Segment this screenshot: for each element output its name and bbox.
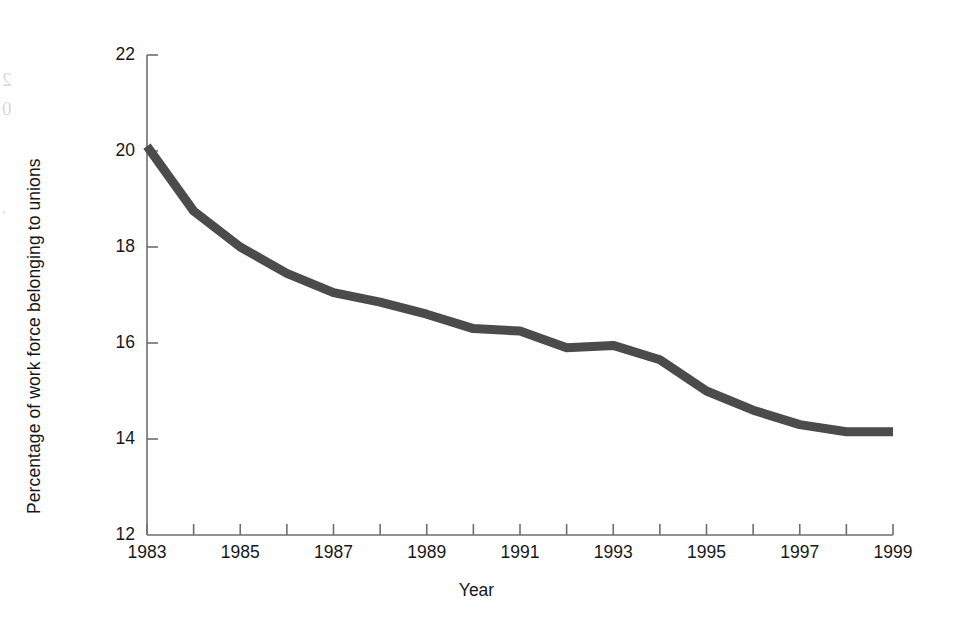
chart-figure: 2 0 , Percentage of work force belonging… — [0, 0, 953, 632]
data-series-line — [147, 146, 893, 432]
y-tick-label: 18 — [95, 236, 135, 257]
union-membership-line — [147, 146, 893, 432]
axes-group — [147, 55, 893, 535]
y-tick-label: 20 — [95, 140, 135, 161]
x-tick-label: 1993 — [578, 542, 648, 563]
tick-marks-group — [147, 55, 893, 535]
x-tick-label: 1991 — [485, 542, 555, 563]
x-tick-label: 1999 — [858, 542, 928, 563]
x-tick-label: 1987 — [299, 542, 369, 563]
x-tick-label: 1997 — [765, 542, 835, 563]
y-tick-label: 14 — [95, 428, 135, 449]
x-tick-label: 1983 — [112, 542, 182, 563]
y-tick-label: 16 — [95, 332, 135, 353]
y-tick-label: 22 — [95, 44, 135, 65]
x-tick-label: 1989 — [392, 542, 462, 563]
x-tick-label: 1995 — [672, 542, 742, 563]
x-tick-label: 1985 — [205, 542, 275, 563]
plot-area — [0, 0, 953, 632]
